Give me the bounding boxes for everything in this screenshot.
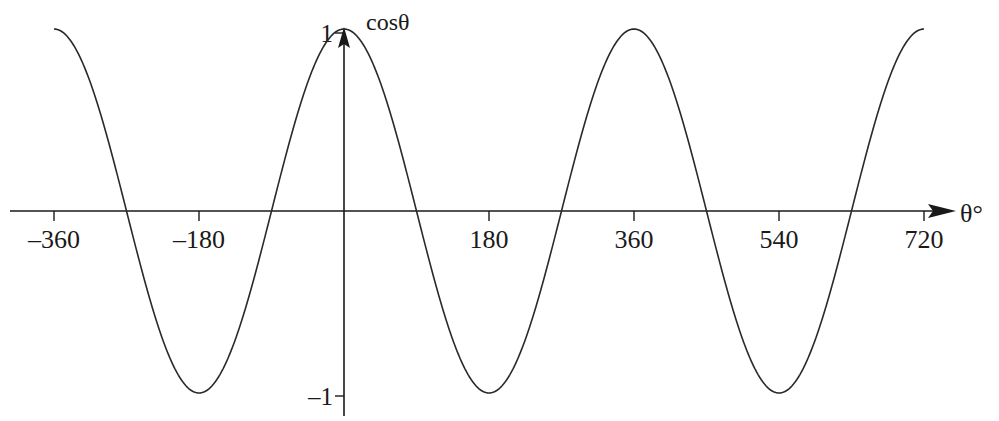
y-ticks: 1–1 bbox=[307, 20, 344, 410]
x-tick-label: 540 bbox=[760, 225, 799, 254]
x-tick-label: –360 bbox=[27, 225, 80, 254]
cosine-chart: θ° cosθ 1–1 –360–180180360540720 bbox=[0, 0, 999, 421]
x-tick-label: 720 bbox=[905, 225, 944, 254]
y-tick-label: –1 bbox=[307, 383, 333, 410]
x-ticks: –360–180180360540720 bbox=[27, 211, 944, 254]
x-tick-label: –180 bbox=[172, 225, 225, 254]
x-axis-label: θ° bbox=[960, 199, 983, 228]
x-tick-label: 180 bbox=[470, 225, 509, 254]
y-axis-label: cosθ bbox=[366, 9, 410, 35]
x-tick-label: 360 bbox=[615, 225, 654, 254]
